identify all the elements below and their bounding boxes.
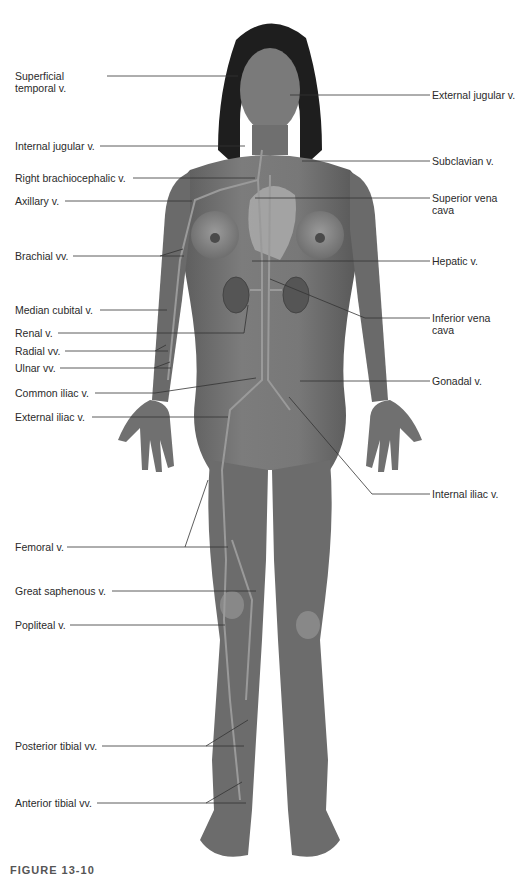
label-anterior-tibial: Anterior tibial vv. [15, 797, 94, 809]
label-internal-jugular: Internal jugular v. [15, 140, 97, 152]
label-inferior-vena-cava: Inferior vena cava [432, 312, 524, 336]
label-posterior-tibial: Posterior tibial vv. [15, 740, 99, 752]
leg-right [200, 460, 268, 857]
label-common-iliac: Common iliac v. [15, 387, 91, 399]
leg-left [272, 460, 340, 857]
label-external-jugular: External jugular v. [432, 89, 517, 101]
label-great-saphenous: Great saphenous v. [15, 585, 108, 597]
label-internal-iliac: Internal iliac v. [432, 488, 500, 500]
label-axillary: Axillary v. [15, 195, 61, 207]
label-gonadal: Gonadal v. [432, 375, 484, 387]
label-external-iliac: External iliac v. [15, 411, 87, 423]
label-superficial-temporal: Superficial temporal v. [15, 70, 107, 94]
head [240, 48, 300, 132]
arm-left [350, 172, 388, 402]
kidney-left [283, 277, 309, 313]
arm-right [152, 172, 190, 402]
label-femoral: Femoral v. [15, 541, 66, 553]
label-subclavian: Subclavian v. [432, 155, 496, 167]
label-superior-vena-cava: Superior vena cava [432, 192, 524, 216]
hand-right [118, 400, 174, 472]
kidney-right [223, 277, 249, 313]
label-median-cubital: Median cubital v. [15, 304, 95, 316]
label-renal: Renal v. [15, 327, 55, 339]
figure-caption: FIGURE 13-10 [10, 864, 95, 876]
label-brachial: Brachial vv. [15, 250, 71, 262]
hand-left [366, 400, 422, 472]
label-right-brachiocephalic: Right brachiocephalic v. [15, 172, 128, 184]
label-radial: Radial vv. [15, 345, 62, 357]
label-popliteal: Popliteal v. [15, 619, 68, 631]
label-hepatic: Hepatic v. [432, 255, 480, 267]
label-ulnar: Ulnar vv. [15, 362, 58, 374]
